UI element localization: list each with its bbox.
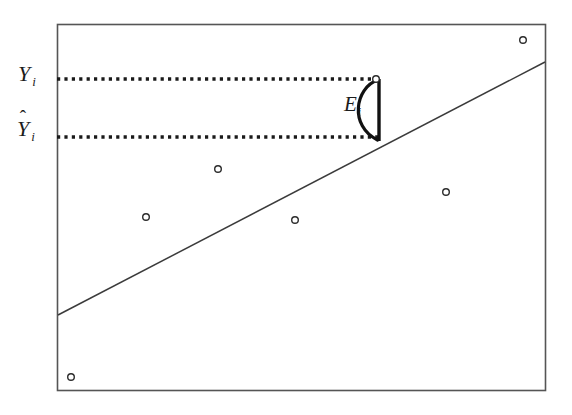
scatter-point <box>143 214 150 221</box>
fitted-value-symbol-wrap: ˆY <box>17 118 29 140</box>
fitted-value-label: ˆYi <box>17 118 33 140</box>
scatter-point <box>443 189 450 196</box>
scatter-point <box>68 374 75 381</box>
regression-residual-figure: Yi ˆYi Ei <box>0 0 572 415</box>
observed-value-symbol: Y <box>18 61 30 86</box>
fitted-value-symbol: Y <box>17 116 29 141</box>
plot-canvas <box>0 0 572 415</box>
scatter-point <box>520 37 527 44</box>
scatter-point <box>292 217 299 224</box>
residual-label: Ei <box>344 94 360 115</box>
scatter-point <box>215 166 222 173</box>
observed-value-label: Yi <box>18 63 34 85</box>
residual-symbol: E <box>344 92 357 116</box>
residual-subscript: i <box>358 105 361 119</box>
scatter-point <box>373 76 380 83</box>
observed-value-subscript: i <box>32 74 36 89</box>
fitted-value-subscript: i <box>31 129 35 144</box>
